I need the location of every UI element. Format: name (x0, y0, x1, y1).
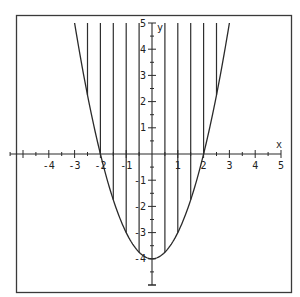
y-tick-label: 4 (140, 44, 146, 55)
y-tick-label: 1 (140, 122, 146, 133)
x-tick-label: 1 (175, 160, 181, 171)
y-tick-label: -1 (134, 175, 146, 186)
x-tick-label: -1 (120, 160, 132, 171)
x-tick-label: -2 (94, 160, 106, 171)
y-tick-label: -4 (134, 253, 146, 264)
x-tick-label: 2 (201, 160, 207, 171)
y-tick-label: -2 (134, 201, 146, 212)
x-axis-label: x (276, 139, 282, 150)
parabola-plot: -4-3-2-112345-4-3-2-112345 x y (0, 0, 300, 297)
tick-labels: -4-3-2-112345-4-3-2-112345 (43, 18, 284, 265)
y-tick-label: 3 (140, 70, 146, 81)
x-tick-label: 5 (278, 160, 284, 171)
x-tick-label: -3 (69, 160, 81, 171)
y-axis-label: y (157, 22, 163, 33)
x-tick-label: -4 (43, 160, 55, 171)
x-tick-label: 3 (226, 160, 232, 171)
x-tick-label: 4 (252, 160, 258, 171)
y-tick-label: 5 (140, 18, 146, 29)
y-tick-label: -3 (134, 227, 146, 238)
y-tick-label: 2 (140, 96, 146, 107)
